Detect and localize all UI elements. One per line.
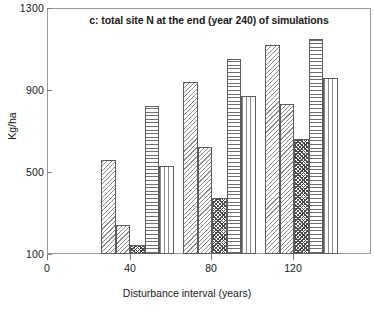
bar-40-series-2 <box>116 225 131 254</box>
bar-120-series-5 <box>323 78 338 254</box>
bar-80-series-1 <box>183 82 198 254</box>
x-tick-mark-80 <box>211 254 212 260</box>
bar-40-series-4 <box>145 106 160 254</box>
y-tick-label-1300: 1300 <box>20 2 44 14</box>
bar-40-series-3 <box>130 245 145 254</box>
bar-80-series-2 <box>198 147 213 254</box>
x-tick-label-80: 80 <box>191 262 231 274</box>
bar-40-series-1 <box>101 160 116 254</box>
y-tick-mark-900 <box>47 90 52 91</box>
x-tick-label-120: 120 <box>273 262 313 274</box>
x-tick-label-0: 0 <box>27 262 67 274</box>
y-tick-mark-1300 <box>47 8 52 9</box>
x-tick-label-40: 40 <box>110 262 150 274</box>
chart-title: c: total site N at the end (year 240) of… <box>47 14 371 26</box>
bar-chart: c: total site N at the end (year 240) of… <box>0 0 374 317</box>
bar-80-series-5 <box>241 96 256 254</box>
y-tick-mark-500 <box>47 172 52 173</box>
bar-80-series-4 <box>227 59 242 254</box>
x-tick-mark-40 <box>130 254 131 260</box>
bar-80-series-3 <box>212 198 227 254</box>
x-axis-label: Disturbance interval (years) <box>0 287 374 299</box>
y-tick-label-900: 900 <box>26 84 44 96</box>
bar-120-series-1 <box>265 45 280 254</box>
bar-120-series-4 <box>309 39 324 254</box>
y-tick-label-500: 500 <box>26 166 44 178</box>
bar-40-series-5 <box>159 166 174 254</box>
y-tick-label-100: 100 <box>26 248 44 260</box>
x-tick-mark-0 <box>47 254 48 260</box>
bar-120-series-3 <box>294 139 309 254</box>
bar-120-series-2 <box>280 104 295 254</box>
x-tick-mark-120 <box>293 254 294 260</box>
